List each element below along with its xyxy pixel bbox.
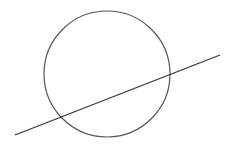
diagram-canvas bbox=[0, 0, 234, 149]
circle-shape bbox=[44, 11, 170, 137]
circle-secant-diagram bbox=[0, 0, 234, 149]
secant-line bbox=[15, 55, 220, 135]
